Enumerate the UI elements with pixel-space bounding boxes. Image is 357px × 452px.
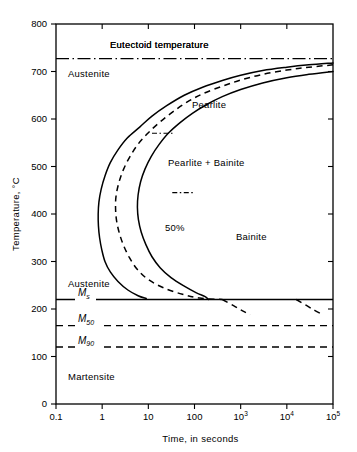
y-tick-label: 300: [31, 256, 47, 267]
eutectoid-temperature-label: Eutectoid temperature: [110, 39, 209, 50]
y-tick-label: 800: [31, 18, 47, 29]
chart-canvas: Eutectoid temperature 010020030040050060…: [0, 0, 357, 452]
y-tick-label: 400: [31, 208, 47, 219]
annotation-pearlite: Pearlite: [192, 99, 226, 110]
annotation-austenite-upper: Austenite: [68, 68, 110, 79]
x-axis-title: Time, in seconds: [162, 433, 238, 444]
y-tick-label: 700: [31, 66, 47, 77]
y-tick-label: 200: [31, 303, 47, 314]
y-tick-label: 600: [31, 113, 47, 124]
annotation-pearlite-bainite: Pearlite + Bainite: [168, 157, 245, 168]
annotation-fifty-percent: 50%: [165, 222, 185, 233]
x-tick-label: 1: [100, 411, 105, 422]
annotation-bainite: Bainite: [236, 231, 267, 242]
y-axis-title: Temperature, °C: [10, 177, 21, 251]
y-tick-label: 100: [31, 351, 47, 362]
annotation-martensite: Martensite: [68, 371, 115, 382]
x-tick-label: 0.1: [49, 411, 62, 422]
ttt-diagram: Eutectoid temperature 010020030040050060…: [0, 0, 357, 452]
y-tick-label: 0: [42, 398, 47, 409]
y-tick-label: 500: [31, 161, 47, 172]
x-tick-label: 100: [187, 411, 203, 422]
x-tick-label: 10: [143, 411, 154, 422]
annotation-austenite-lower: Austenite: [68, 278, 110, 289]
